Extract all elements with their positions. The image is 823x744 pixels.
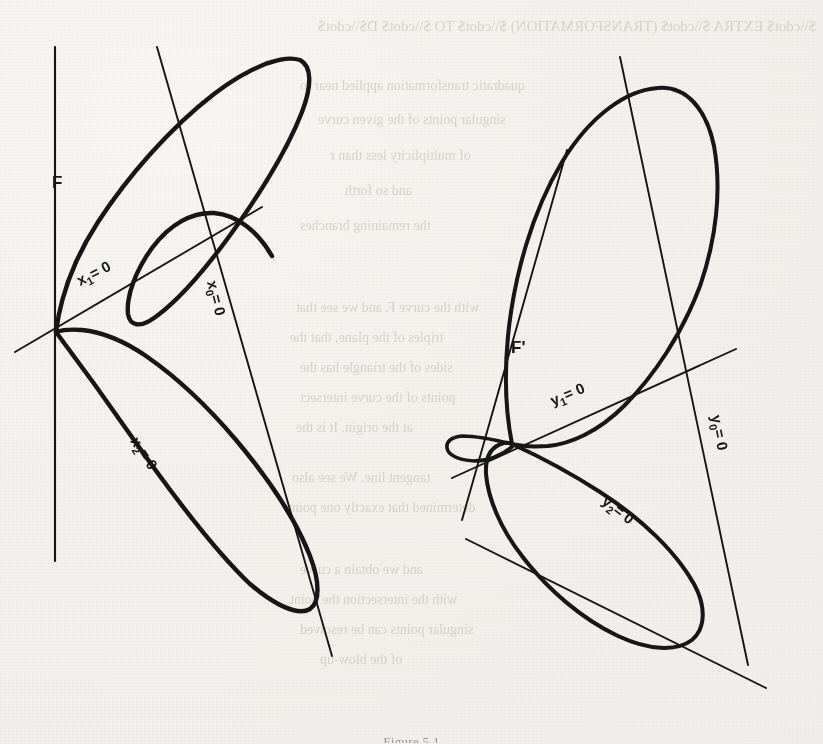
right-figure-group: F' y1= 0 y0= 0 y2= 0 [447, 57, 766, 688]
reference-line-y3 [466, 539, 766, 688]
left-figure-group: F x1= 0 x0= 0 x2= 0 [15, 47, 332, 656]
label-line-y2: y2= 0 [597, 492, 637, 530]
curve-F-upper-branch [56, 59, 309, 332]
scanned-page: $\\cdot$ EXTRA $\\cdot$ (TRANSFORMATION)… [0, 0, 823, 744]
label-line-x1: x1= 0 [74, 257, 115, 291]
label-curve-F: F [52, 173, 62, 192]
curve-Fprime-upper-branch [506, 88, 718, 447]
figure-caption: Figure 5.1 [0, 731, 823, 743]
label-line-y1: y1= 0 [548, 379, 589, 411]
reference-line-x0 [157, 47, 332, 656]
label-line-y0: y0= 0 [705, 413, 731, 452]
curve-Fprime-lower-branch [486, 443, 703, 648]
figure-drawing: F x1= 0 x0= 0 x2= 0 [0, 0, 823, 744]
label-curve-F-prime: F' [511, 338, 525, 357]
reference-line-y0 [620, 57, 748, 665]
reference-line-x1 [15, 207, 262, 352]
